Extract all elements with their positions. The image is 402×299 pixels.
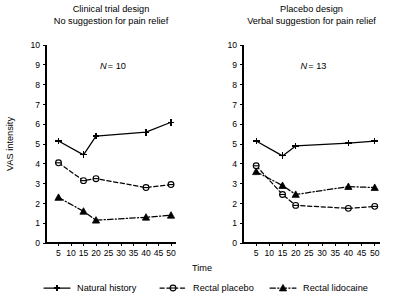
axis-spine [46,45,176,243]
y-tick-label: 5 [232,139,237,149]
y-tick-label: 4 [35,159,40,169]
axis-spine [243,45,380,243]
x-tick-label: 10 [66,248,76,258]
triangle-marker [279,182,286,188]
chart-panel-right: Placebo designVerbal suggestion for pain… [227,4,380,258]
sample-size-symbol: N [100,61,107,71]
series-line-rectal-lidocaine [256,172,375,195]
x-tick-label: 45 [357,248,367,258]
y-tick-label: 6 [35,119,40,129]
y-tick-label: 4 [232,159,237,169]
y-tick-label: 10 [30,40,40,50]
legend-label: Natural history [77,283,137,293]
y-tick-label: 5 [35,139,40,149]
x-tick-label: 50 [370,248,380,258]
x-tick-label: 25 [104,248,114,258]
legend-label: Rectal lidocaine [303,283,368,293]
x-axis-label: Time [192,263,212,273]
sample-size-annotation: N= 10 [100,61,126,71]
y-tick-label: 8 [35,80,40,90]
x-tick-label: 5 [56,248,61,258]
panel-title: Placebo design [280,4,343,14]
x-tick-label: 15 [79,248,89,258]
series-markers-rectal-placebo [253,163,377,211]
y-tick-label: 10 [227,40,237,50]
x-tick-label: 45 [154,248,164,258]
legend: Natural historyRectal placeboRectal lido… [44,283,368,293]
series-line-natural-history [256,141,375,156]
triangle-marker [55,194,62,200]
series-line-natural-history [59,122,172,155]
y-tick-label: 0 [232,238,237,248]
y-tick-label: 1 [232,218,237,228]
y-tick-label: 2 [232,199,237,209]
panel-subtitle: No suggestion for pain relief [54,16,169,26]
series-markers-natural-history [55,119,174,158]
x-tick-label: 20 [91,248,101,258]
figure-container: Clinical trial designNo suggestion for p… [0,0,402,299]
y-tick-label: 3 [35,179,40,189]
y-tick-label: 9 [232,60,237,70]
x-tick-label: 30 [116,248,126,258]
x-tick-label: 35 [330,248,340,258]
x-tick-label: 30 [317,248,327,258]
y-tick-label: 7 [232,100,237,110]
legend-item-rectal-placebo: Rectal placebo [160,283,254,293]
y-tick-label: 9 [35,60,40,70]
x-tick-label: 25 [304,248,314,258]
x-tick-label: 50 [166,248,176,258]
x-tick-label: 5 [254,248,259,258]
legend-label: Rectal placebo [193,283,254,293]
y-tick-label: 3 [232,179,237,189]
legend-item-rectal-lidocaine: Rectal lidocaine [270,283,368,293]
panel-title: Clinical trial design [73,4,150,14]
series-line-rectal-placebo [59,163,172,188]
y-tick-label: 7 [35,100,40,110]
legend-item-natural-history: Natural history [44,283,137,293]
sample-size-value: = 13 [308,61,326,71]
chart-figure: Clinical trial designNo suggestion for p… [0,0,402,299]
y-tick-label: 6 [232,119,237,129]
y-tick-label: 2 [35,199,40,209]
y-tick-label: 1 [35,218,40,228]
x-tick-label: 20 [291,248,301,258]
x-tick-label: 40 [141,248,151,258]
x-tick-label: 35 [129,248,139,258]
y-tick-label: 0 [35,238,40,248]
series-line-rectal-lidocaine [59,197,172,220]
sample-size-annotation: N= 13 [301,61,327,71]
chart-panel-left: Clinical trial designNo suggestion for p… [30,4,176,258]
panel-subtitle: Verbal suggestion for pain relief [247,16,376,26]
y-tick-label: 8 [232,80,237,90]
sample-size-symbol: N [301,61,308,71]
sample-size-value: = 10 [108,61,126,71]
x-tick-label: 10 [265,248,275,258]
triangle-marker [80,208,87,214]
y-axis-label: VAS intensity [5,117,15,171]
x-tick-label: 15 [278,248,288,258]
series-markers-natural-history [253,138,378,160]
x-tick-label: 40 [344,248,354,258]
